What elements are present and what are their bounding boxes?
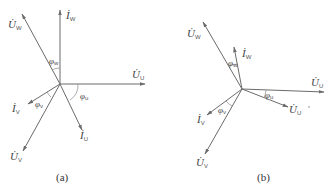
label-i-w: İW bbox=[241, 47, 252, 60]
angle-label-phi-v: φv bbox=[218, 105, 226, 115]
angle-label-phi-w: φw bbox=[49, 56, 59, 66]
angle-arc-v bbox=[47, 92, 51, 97]
vector-i-u bbox=[60, 84, 82, 130]
label-i-v: İV bbox=[11, 102, 20, 115]
caption-a: (a) bbox=[56, 171, 69, 184]
label-u-w: U̇W bbox=[8, 18, 22, 31]
angle-arc-v bbox=[226, 101, 232, 106]
vector-i-v bbox=[28, 84, 60, 104]
angle-arc-u bbox=[70, 84, 78, 100]
angle-label-phi-u: φu bbox=[80, 91, 88, 101]
vector-u-w bbox=[22, 14, 60, 84]
vector-u-u bbox=[242, 89, 324, 92]
vector-u-w bbox=[203, 22, 242, 89]
angle-label-phi-u: φu bbox=[265, 90, 273, 100]
caption-b: (b) bbox=[257, 171, 270, 184]
angle-arc-w bbox=[52, 68, 60, 70]
phasor-diagrams: U̇W İW U̇U İU İV U̇V φw φu φv (a) U̇W İW… bbox=[0, 0, 333, 192]
label-u-v: U̇V bbox=[10, 150, 22, 163]
label-i-w: İW bbox=[65, 9, 76, 22]
angle-label-phi-v: φv bbox=[35, 99, 43, 109]
label-i-u: U̇U bbox=[289, 103, 301, 116]
vector-u-v bbox=[205, 89, 242, 154]
label-u-v: U̇V bbox=[196, 156, 208, 169]
label-u-u: U̇U bbox=[311, 76, 323, 89]
label-i-u: İU bbox=[79, 129, 88, 142]
label-u-u: U̇U bbox=[132, 68, 144, 81]
diagram-a: U̇W İW U̇U İU İV U̇V φw φu φv (a) bbox=[8, 9, 145, 184]
stray-dot bbox=[308, 106, 310, 108]
vector-u-v bbox=[23, 84, 60, 151]
label-i-v: İV bbox=[196, 113, 205, 126]
label-u-w: U̇W bbox=[187, 27, 201, 40]
diagram-b: U̇W İW U̇U U̇U İV U̇V φw φu φv (b) bbox=[187, 22, 324, 184]
